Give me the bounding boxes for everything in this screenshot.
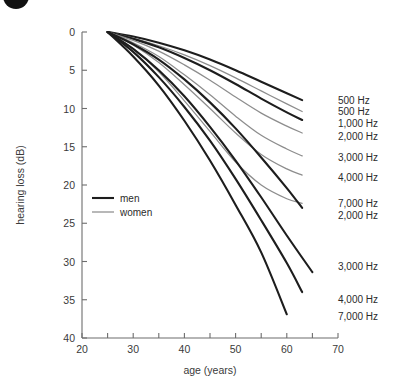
end-label-5: 3,000 Hz — [338, 152, 378, 163]
hearing-loss-line-chart: 203040506070 0510152025303540 age (years… — [0, 0, 395, 390]
y-tick-label: 5 — [69, 64, 75, 76]
x-axis-title: age (years) — [183, 364, 236, 376]
legend-label-men: men — [120, 193, 139, 204]
x-axis-ticks: 203040506070 — [76, 333, 344, 355]
end-label-9: 3,000 Hz — [338, 261, 378, 272]
data-curves — [108, 32, 313, 314]
x-tick-label: 30 — [127, 343, 139, 355]
end-label-2: 500 Hz — [338, 106, 370, 117]
y-tick-label: 0 — [69, 26, 75, 38]
legend-label-women: women — [119, 207, 152, 218]
y-tick-label: 15 — [63, 141, 75, 153]
y-axis-ticks: 0510152025303540 — [63, 26, 87, 344]
corner-page-marker-icon — [3, 0, 29, 9]
y-tick-label: 10 — [63, 103, 75, 115]
y-axis-title: hearing loss (dB) — [14, 145, 26, 224]
x-tick-label: 40 — [179, 343, 191, 355]
end-label-6: 4,000 Hz — [338, 172, 378, 183]
end-label-4: 2,000 Hz — [338, 131, 378, 142]
legend: menwomen — [92, 193, 152, 218]
end-label-11: 7,000 Hz — [338, 311, 378, 322]
chart-figure: 203040506070 0510152025303540 age (years… — [0, 0, 395, 390]
y-tick-label: 35 — [63, 294, 75, 306]
curve-7-000-hz — [108, 32, 287, 314]
end-label-8: 2,000 Hz — [338, 210, 378, 221]
axes — [82, 32, 338, 338]
y-tick-label: 25 — [63, 217, 75, 229]
series-end-labels: 500 Hz500 Hz1,000 Hz2,000 Hz3,000 Hz4,00… — [338, 95, 378, 322]
y-tick-label: 40 — [63, 332, 75, 344]
end-label-3: 1,000 Hz — [338, 118, 378, 129]
x-tick-label: 50 — [230, 343, 242, 355]
end-label-7: 7,000 Hz — [338, 198, 378, 209]
curve-3-000-hz — [108, 32, 313, 272]
x-tick-label: 20 — [76, 343, 88, 355]
y-tick-label: 30 — [63, 256, 75, 268]
y-tick-label: 20 — [63, 179, 75, 191]
x-tick-label: 60 — [281, 343, 293, 355]
x-tick-label: 70 — [332, 343, 344, 355]
end-label-1: 500 Hz — [338, 95, 370, 106]
end-label-10: 4,000 Hz — [338, 294, 378, 305]
